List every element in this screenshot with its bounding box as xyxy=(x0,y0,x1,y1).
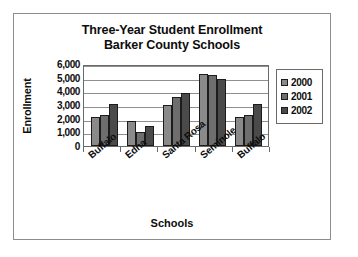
bar-2000-santa-rosa xyxy=(163,105,172,146)
legend-label: 2000 xyxy=(291,77,312,88)
y-axis-tick-label: 6,000 xyxy=(40,60,80,70)
x-axis-category-labels: BuffaloEdnaSanta RosaSeminoleBuffalo xyxy=(83,152,269,207)
legend-item-2002: 2002 xyxy=(281,105,319,116)
bar-group xyxy=(123,66,159,146)
legend-item-2001: 2001 xyxy=(281,91,319,102)
legend-swatch-icon xyxy=(281,79,288,86)
legend-label: 2001 xyxy=(291,91,312,102)
y-axis-tick-label: 3,000 xyxy=(40,101,80,111)
y-axis-tick-label: 5,000 xyxy=(40,74,80,84)
y-axis-tick-label: 0 xyxy=(40,142,80,152)
chart-legend: 200020012002 xyxy=(276,69,323,124)
y-axis-tick-label: 2,000 xyxy=(40,115,80,125)
y-axis-tick-label: 4,000 xyxy=(40,87,80,97)
bar-2001-seminole xyxy=(208,75,217,146)
legend-swatch-icon xyxy=(281,93,288,100)
y-axis-tick-label: 1,000 xyxy=(40,128,80,138)
chart-title: Three-Year Student Enrollment Barker Cou… xyxy=(14,23,330,52)
chart-title-line-1: Three-Year Student Enrollment xyxy=(82,23,262,37)
chart-title-line-2: Barker County Schools xyxy=(14,38,330,53)
bar-2000-seminole xyxy=(199,74,208,146)
y-axis-title: Enrollment xyxy=(21,70,33,142)
legend-swatch-icon xyxy=(281,107,288,114)
bar-group xyxy=(87,66,123,146)
x-axis-title: Schools xyxy=(14,217,330,229)
y-axis-tick-labels: 6,0005,0004,0003,0002,0001,0000 xyxy=(40,65,80,147)
x-axis-tick-mark xyxy=(269,147,270,152)
legend-label: 2002 xyxy=(291,105,312,116)
legend-item-2000: 2000 xyxy=(281,77,319,88)
chart-frame: Three-Year Student Enrollment Barker Cou… xyxy=(13,13,331,240)
